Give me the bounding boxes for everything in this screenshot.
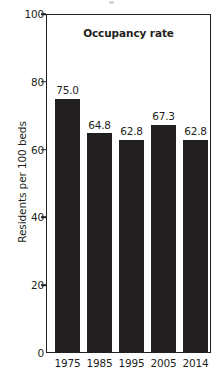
bar-value-2005: 67.3	[152, 110, 175, 122]
y-tick-label-40: 40	[10, 211, 44, 223]
image-artifact	[109, 1, 114, 4]
x-tick-label-1985: 1985	[87, 357, 113, 369]
x-tick-label-2005: 2005	[151, 357, 177, 369]
occupancy-rate-bar-chart: Residents per 100 beds 100 80 60 40 20 0…	[0, 0, 222, 386]
y-tick-label-60: 60	[10, 144, 44, 156]
y-tick-label-100: 100	[10, 8, 44, 20]
x-tick-label-1995: 1995	[119, 357, 145, 369]
y-tick-label-80: 80	[10, 76, 44, 88]
y-axis-ticks: 100 80 60 40 20 0	[0, 0, 44, 386]
bar-2014	[183, 140, 208, 353]
bar-value-2014: 62.8	[184, 125, 207, 137]
y-tick-label-0: 0	[10, 347, 44, 359]
x-axis-ticks: 1975 1985 1995 2005 2014	[46, 357, 211, 377]
bar-value-1995: 62.8	[120, 125, 143, 137]
bars-layer: 75.0 64.8 62.8 67.3 62.8	[46, 14, 211, 353]
bar-2005	[151, 125, 176, 353]
bar-value-1985: 64.8	[88, 119, 111, 131]
bar-1995	[119, 140, 144, 353]
x-tick-label-2014: 2014	[183, 357, 209, 369]
y-tick-label-20: 20	[10, 279, 44, 291]
bar-1975	[55, 99, 80, 353]
bar-value-1975: 75.0	[56, 84, 79, 96]
x-tick-label-1975: 1975	[55, 357, 81, 369]
bar-1985	[87, 133, 112, 353]
